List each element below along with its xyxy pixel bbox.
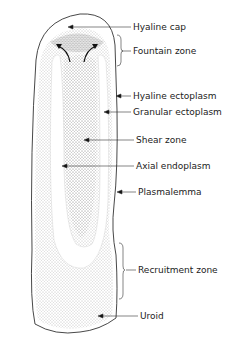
label-fountain-zone: Fountain zone [133, 46, 196, 56]
label-hyaline-cap: Hyaline cap [133, 22, 186, 32]
label-shear-zone: Shear zone [136, 135, 187, 145]
label-plasmalemma: Plasmalemma [138, 187, 202, 197]
pseudopod-diagram [0, 0, 243, 357]
label-recruitment-zone: Recruitment zone [138, 265, 218, 275]
label-granular-ectoplasm: Granular ectoplasm [133, 107, 222, 117]
label-hyaline-ectoplasm: Hyaline ectoplasm [133, 91, 216, 101]
label-axial-endoplasm: Axial endoplasm [136, 161, 211, 171]
label-uroid: Uroid [140, 311, 164, 321]
